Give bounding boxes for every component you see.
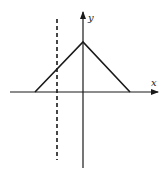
- y-axis-label: y: [87, 12, 94, 23]
- x-axis-label: x: [151, 77, 157, 88]
- diagram-canvas: y x: [0, 0, 165, 179]
